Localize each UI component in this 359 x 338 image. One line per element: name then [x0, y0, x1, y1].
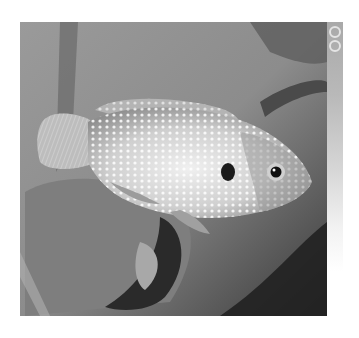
side-strip	[327, 22, 343, 316]
ring-icon[interactable]	[329, 26, 341, 38]
ring-icon[interactable]	[329, 40, 341, 52]
fish-photo	[20, 22, 327, 316]
fish-photo-graphic	[20, 22, 327, 316]
